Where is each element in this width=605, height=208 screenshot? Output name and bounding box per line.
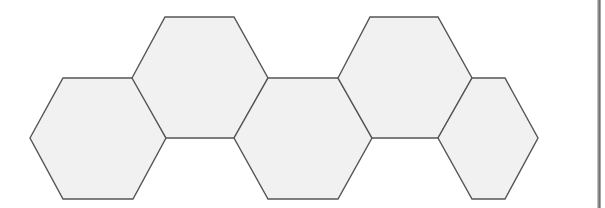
window-right-border	[597, 0, 601, 208]
hexagon-diagram	[0, 0, 605, 208]
